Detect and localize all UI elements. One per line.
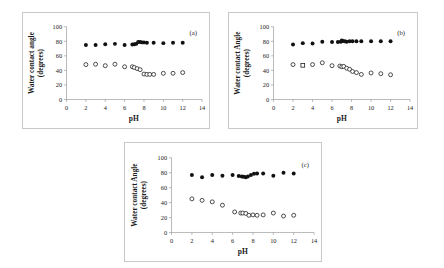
data-point-open <box>379 72 383 76</box>
x-axis-title: pH <box>238 247 248 256</box>
y-axis-title-line2: (degrees) <box>37 49 45 78</box>
data-point-filled <box>161 41 165 45</box>
y-axis-title-line1: Water contact Angle <box>130 163 139 227</box>
data-point-filled <box>301 41 305 45</box>
data-point-open <box>123 65 127 69</box>
data-point-open <box>84 63 88 67</box>
data-point-filled <box>271 174 275 178</box>
data-point-open <box>200 198 204 202</box>
data-point-open <box>148 72 152 76</box>
data-point-filled <box>369 39 373 43</box>
x-tick-label: 0 <box>170 237 173 244</box>
panel-label: (a) <box>189 29 196 37</box>
x-tick-label: 10 <box>160 104 166 111</box>
data-point-filled <box>231 173 235 177</box>
data-point-open <box>369 71 373 75</box>
x-tick-label: 6 <box>231 237 234 244</box>
figure-container: 02040608010002468101214pHWater contact a… <box>0 0 444 268</box>
data-point-filled <box>200 175 204 179</box>
y-tick-label: 100 <box>260 23 269 30</box>
data-point-open <box>210 200 214 204</box>
data-point-open <box>113 62 117 66</box>
y-tick-label: 100 <box>158 154 167 161</box>
data-point-filled <box>171 41 175 45</box>
y-axis-title-line2: (degrees) <box>243 49 251 78</box>
y-tick-label: 20 <box>161 214 167 221</box>
data-point-filled <box>103 42 107 46</box>
x-tick-label: 12 <box>387 104 393 111</box>
y-tick-label: 60 <box>56 52 62 59</box>
x-axis-title: pH <box>129 114 139 123</box>
data-point-open <box>271 211 275 215</box>
data-point-open <box>247 213 251 217</box>
y-axis-title-line1: Water contact angle <box>28 31 36 94</box>
data-point-open <box>251 213 255 217</box>
y-tick-label: 60 <box>263 52 269 59</box>
data-point-filled <box>255 171 259 175</box>
x-tick-label: 4 <box>211 237 215 244</box>
y-tick-label: 100 <box>53 23 62 30</box>
data-point-filled <box>354 39 358 43</box>
data-point-open <box>220 203 224 207</box>
chart-panel-a: 02040608010002468101214pHWater contact a… <box>22 12 210 129</box>
x-axis-title: pH <box>337 114 347 123</box>
y-tick-label: 0 <box>164 229 167 236</box>
data-point-filled <box>181 41 185 45</box>
x-tick-label: 6 <box>330 104 333 111</box>
x-tick-label: 4 <box>104 104 108 111</box>
x-tick-label: 6 <box>123 104 126 111</box>
panel-label: (c) <box>301 161 308 169</box>
x-tick-label: 12 <box>291 237 297 244</box>
data-point-open <box>103 64 107 68</box>
data-point-filled <box>123 43 127 47</box>
y-tick-label: 0 <box>59 96 62 103</box>
data-point-filled <box>359 39 363 43</box>
x-tick-label: 2 <box>84 104 87 111</box>
y-tick-label: 0 <box>266 96 269 103</box>
data-point-filled <box>292 171 296 175</box>
data-point-open <box>161 71 165 75</box>
x-tick-label: 10 <box>368 104 374 111</box>
data-point-filled <box>311 42 315 46</box>
data-point-open <box>94 62 98 66</box>
data-point-open <box>138 68 142 72</box>
data-point-open <box>351 70 355 74</box>
plot-area-a: 02040608010002468101214pHWater contact a… <box>23 13 209 128</box>
x-tick-label: 0 <box>65 104 68 111</box>
x-tick-label: 0 <box>272 104 275 111</box>
data-point-open <box>320 61 324 65</box>
x-tick-label: 12 <box>180 104 186 111</box>
data-point-open <box>181 71 185 75</box>
data-point-filled <box>389 39 393 43</box>
data-point-filled <box>261 171 265 175</box>
data-point-open-square <box>301 63 305 67</box>
panel-label: (b) <box>397 29 405 37</box>
y-tick-label: 40 <box>161 199 167 206</box>
x-tick-label: 2 <box>190 237 193 244</box>
data-point-filled <box>145 41 149 45</box>
x-tick-label: 14 <box>199 104 206 111</box>
data-point-filled <box>190 173 194 177</box>
y-tick-label: 20 <box>263 81 269 88</box>
x-tick-label: 14 <box>311 237 318 244</box>
scatter-plot-a: 02040608010002468101214pHWater contact a… <box>23 13 209 128</box>
y-tick-label: 80 <box>161 169 167 176</box>
data-point-filled <box>379 39 383 43</box>
data-point-filled <box>291 43 295 47</box>
y-tick-label: 80 <box>263 38 269 45</box>
data-point-open <box>233 210 237 214</box>
data-point-open <box>354 71 358 75</box>
x-tick-label: 8 <box>251 237 254 244</box>
data-point-open <box>171 71 175 75</box>
x-tick-label: 14 <box>407 104 414 111</box>
data-point-filled <box>113 42 117 46</box>
chart-panel-b: 02040608010002468101214pHWater contact A… <box>228 12 418 129</box>
scatter-plot-b: 02040608010002468101214pHWater contact A… <box>229 13 417 128</box>
data-point-filled <box>351 39 355 43</box>
data-point-open <box>330 64 334 68</box>
data-point-filled <box>152 41 156 45</box>
y-axis-title-line1: Water contact Angle <box>234 31 242 95</box>
data-point-open <box>261 213 265 217</box>
data-point-open <box>152 72 156 76</box>
y-tick-label: 40 <box>263 67 269 74</box>
